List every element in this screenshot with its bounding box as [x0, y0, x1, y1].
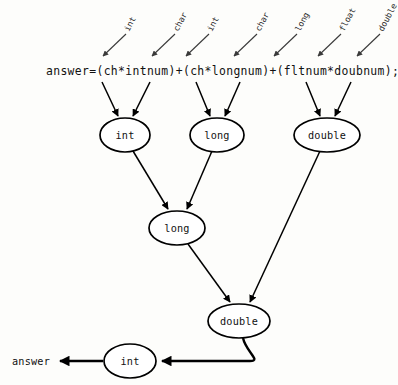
node-label: long: [204, 130, 229, 141]
node-label: int: [120, 356, 139, 367]
annotation-leader-line: [357, 34, 380, 56]
edge-long-mid-to-double-low: [188, 244, 230, 302]
node-int-result[interactable]: int: [104, 344, 156, 378]
edges-expression-to-row1: [102, 82, 351, 116]
node-label: long: [164, 223, 189, 234]
node-label: double: [220, 316, 258, 327]
annotation-char-1: char: [152, 10, 189, 56]
type-promotion-diagram: int char int char long float: [0, 0, 398, 385]
annotation-group: int char int char long float: [103, 2, 398, 56]
edges-to-double-low: [188, 151, 320, 302]
edge-to-double-top-left: [306, 82, 320, 116]
edge-double-low-to-int-result: [162, 338, 254, 361]
annotation-label: double: [376, 2, 398, 33]
code-expression: answer=(ch*intnum)+(ch*longnum)+(fltnum*…: [46, 64, 398, 78]
annotation-double-1: double: [357, 2, 398, 56]
edge-to-double-top-right: [335, 82, 351, 116]
annotation-label: char: [171, 10, 189, 33]
annotation-leader-line: [234, 34, 257, 56]
edge-to-long-top-right: [225, 82, 240, 116]
annotation-leader-line: [152, 34, 175, 56]
edge-double-top-to-double-low: [250, 151, 320, 302]
node-int-top[interactable]: int: [100, 118, 150, 152]
annotation-int-2: int: [186, 15, 221, 56]
diagram-canvas: int char int char long float: [0, 0, 398, 385]
annotation-leader-line: [103, 34, 126, 56]
annotation-leader-line: [186, 34, 209, 56]
edge-int-top-to-long-mid: [133, 151, 168, 209]
annotation-float-1: float: [318, 6, 358, 56]
answer-label: answer: [12, 356, 50, 367]
annotation-label: int: [205, 15, 221, 33]
node-long-top[interactable]: long: [190, 118, 244, 152]
edge-to-int-top-right: [133, 82, 150, 116]
node-double-low[interactable]: double: [208, 304, 270, 338]
annotation-leader-line: [318, 34, 341, 56]
annotation-label: int: [122, 15, 138, 33]
annotation-long-1: long: [274, 10, 311, 56]
annotation-char-2: char: [234, 10, 271, 56]
node-double-top[interactable]: double: [294, 118, 360, 152]
annotation-leader-line: [274, 34, 297, 56]
annotation-label: float: [337, 6, 358, 33]
edge-to-int-top-left: [102, 82, 118, 116]
edges-row1-to-mid: [133, 151, 212, 209]
node-label: int: [115, 130, 134, 141]
edge-long-top-to-long-mid: [187, 151, 212, 209]
edge-to-long-top-left: [196, 82, 210, 116]
node-long-mid[interactable]: long: [149, 211, 205, 245]
node-label: double: [308, 130, 346, 141]
annotation-label: long: [293, 10, 311, 33]
annotation-label: char: [253, 10, 271, 33]
annotation-int-1: int: [103, 15, 138, 56]
